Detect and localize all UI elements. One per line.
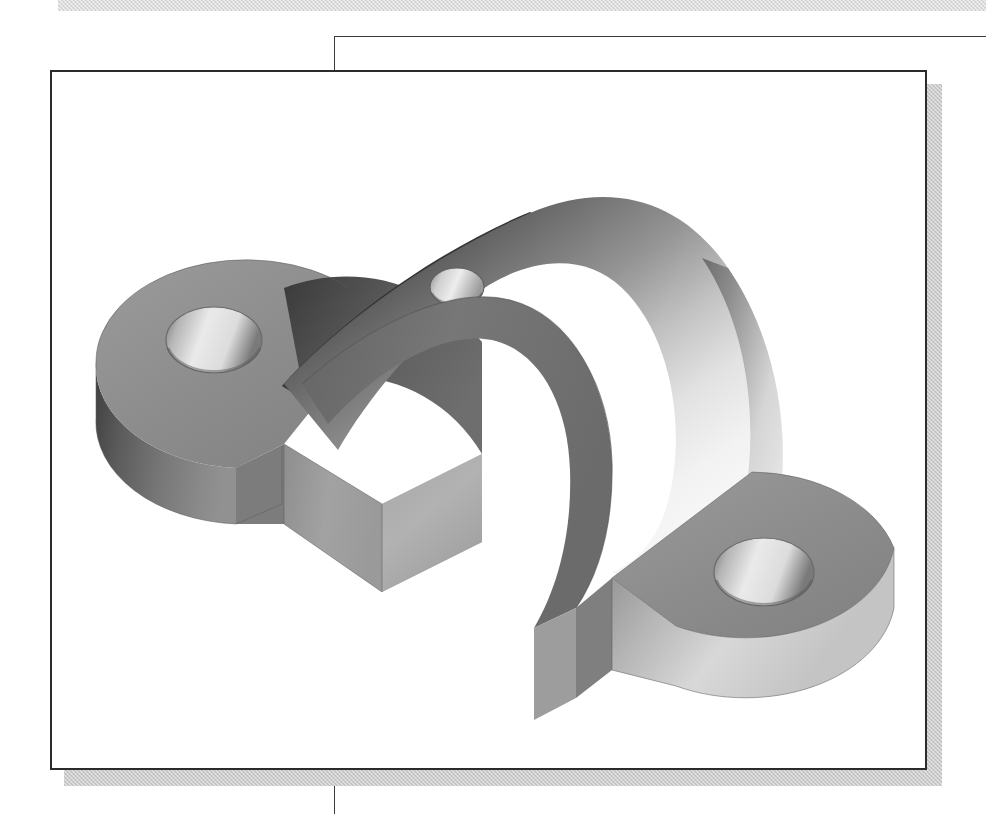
- isometric-part-render: [52, 72, 925, 768]
- frame-vertical-rule-top: [334, 36, 335, 71]
- model-viewport[interactable]: [50, 70, 927, 770]
- arch-left-leg-front: [382, 454, 482, 592]
- rib-left-face: [284, 444, 382, 592]
- frame-top-rule: [334, 36, 986, 37]
- screenshot-root: [0, 0, 986, 814]
- header-rule-band: [58, 0, 986, 11]
